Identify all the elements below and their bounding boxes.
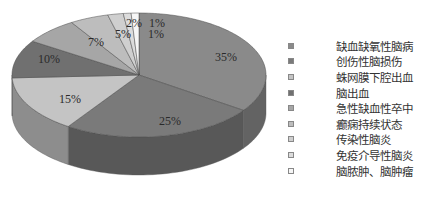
chart-legend: 缺血缺氧性脑病创伤性脑损伤蛛网膜下腔出血脑出血急性缺血性卒中癫痫持续状态传染性脑… [286, 38, 430, 178]
legend-label: 蛛网膜下腔出血 [336, 69, 413, 85]
legend-swatch [288, 74, 294, 80]
legend-item: 免疫介导性脑炎 [286, 147, 430, 163]
pie-chart-3d: 35%25%15%10%7%5%2%1%1% [0, 0, 280, 197]
legend-label: 癫痫持续状态 [336, 116, 402, 132]
slice-label-0: 35% [215, 50, 237, 64]
legend-label: 急性缺血性卒中 [336, 100, 413, 116]
legend-label: 缺血缺氧性脑病 [336, 38, 413, 54]
slice-label-1: 25% [159, 114, 181, 128]
slice-label-2: 15% [59, 92, 81, 106]
legend-item: 创伤性脑损伤 [286, 54, 430, 70]
legend-swatch [288, 58, 294, 64]
legend-swatch [288, 105, 294, 111]
legend-item: 缺血缺氧性脑病 [286, 38, 430, 54]
legend-item: 急性缺血性卒中 [286, 100, 430, 116]
slice-label-8: 1% [148, 27, 164, 41]
legend-item: 传染性脑炎 [286, 132, 430, 148]
legend-item: 脑脓肿、脑肿瘤 [286, 163, 430, 179]
legend-label: 脑出血 [336, 85, 369, 101]
legend-swatch [288, 90, 294, 96]
slice-label-3: 10% [38, 52, 60, 66]
legend-item: 蛛网膜下腔出血 [286, 69, 430, 85]
legend-label: 传染性脑炎 [336, 131, 391, 147]
legend-swatch [288, 136, 294, 142]
legend-swatch [288, 152, 294, 158]
slice-label-6: 2% [126, 16, 142, 30]
legend-label: 免疫介导性脑炎 [336, 147, 413, 163]
legend-swatch [288, 43, 294, 49]
pie-top [12, 13, 266, 137]
legend-label: 脑脓肿、脑肿瘤 [336, 163, 413, 179]
legend-item: 癫痫持续状态 [286, 116, 430, 132]
legend-swatch [288, 168, 294, 174]
legend-swatch [288, 121, 294, 127]
slice-label-4: 7% [88, 35, 104, 49]
legend-label: 创伤性脑损伤 [336, 53, 402, 69]
legend-item: 脑出血 [286, 85, 430, 101]
